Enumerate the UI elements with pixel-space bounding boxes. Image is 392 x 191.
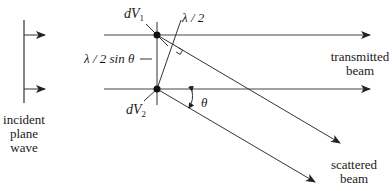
- scattered-beams: [157, 35, 340, 182]
- dv2-label: dV2: [126, 103, 146, 121]
- dv1-label: dV1: [124, 7, 144, 25]
- incident-plane-wave-label: incident plane wave: [0, 113, 48, 155]
- theta-arc: [189, 91, 193, 108]
- incident-wavefront: [24, 20, 45, 103]
- transmitted-beam-label: transmitted beam: [328, 50, 392, 78]
- theta-label: θ: [201, 96, 207, 110]
- perpendicular-line: [157, 20, 181, 89]
- dv1-point: [154, 32, 161, 39]
- right-angle-marker: [176, 48, 183, 55]
- path-spacing-label: λ / 2 sin θ: [84, 52, 134, 66]
- dv2-point: [154, 86, 161, 93]
- half-lambda-label: λ / 2: [182, 11, 204, 25]
- scattered-beam-label: scattered beam: [326, 158, 382, 186]
